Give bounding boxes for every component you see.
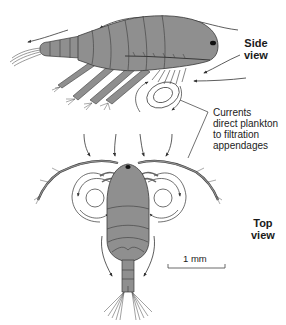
callout-line2: direct plankton — [213, 118, 278, 129]
top-view-label: Top view — [251, 218, 275, 241]
side-eye-icon — [210, 41, 216, 46]
top-eye-icon — [125, 165, 130, 169]
callout-line4: appendages — [213, 140, 278, 151]
top-view-label-line1: Top — [251, 218, 275, 230]
side-view-label: Side view — [244, 38, 268, 61]
scale-bar-label: 1 mm — [183, 254, 207, 264]
side-view-label-line2: view — [244, 50, 268, 62]
top-view-copepod — [34, 134, 222, 320]
callout-line1: Currents — [213, 107, 278, 118]
top-view-label-line2: view — [251, 230, 275, 242]
scale-bar — [168, 264, 225, 268]
callout-leader-lines — [180, 100, 208, 158]
side-view-label-line1: Side — [244, 38, 268, 50]
side-view-copepod — [10, 15, 246, 113]
currents-callout: Currents direct plankton to filtration a… — [213, 107, 278, 151]
callout-line3: to filtration — [213, 129, 278, 140]
